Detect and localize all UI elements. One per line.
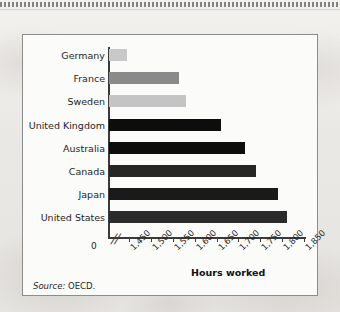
source-label: Source:: [33, 281, 65, 291]
bar-sweden: [109, 95, 186, 107]
x-axis-tick: [173, 237, 174, 242]
x-axis-tick-label: 1,650: [216, 228, 240, 252]
x-axis-title: Hours worked: [191, 267, 265, 278]
category-label-united-kingdom: United Kingdom: [29, 120, 105, 131]
x-axis-tick-label: 1,800: [281, 228, 305, 252]
x-axis-tick: [195, 237, 196, 242]
category-label-united-states: United States: [41, 212, 105, 223]
x-axis-tick-label: 1,850: [303, 228, 327, 252]
x-axis-tick-label: 1,550: [172, 228, 196, 252]
figure-frame: 0 // 1,4501,5001,5501,6001,6501,7001,750…: [22, 34, 318, 296]
source-note: Source: OECD.: [33, 281, 95, 291]
category-label-germany: Germany: [61, 50, 105, 61]
bar-germany: [109, 49, 127, 61]
category-label-japan: Japan: [79, 189, 106, 200]
bar-united-states: [109, 211, 287, 223]
x-axis-tick-label: 1,500: [150, 228, 174, 252]
page-background: 0 // 1,4501,5001,5501,6001,6501,7001,750…: [0, 0, 340, 312]
x-axis-tick: [151, 237, 152, 242]
x-axis-zero-label: 0: [91, 241, 97, 251]
category-label-canada: Canada: [69, 166, 105, 177]
x-axis-tick-label: 1,450: [128, 228, 152, 252]
bar-japan: [109, 188, 278, 200]
bar-united-kingdom: [109, 119, 221, 131]
bar-france: [109, 72, 179, 84]
category-label-sweden: Sweden: [67, 96, 105, 107]
source-value: OECD.: [68, 281, 95, 291]
top-rule-divider: [0, 9, 340, 10]
bar-australia: [109, 142, 245, 154]
x-axis-tick-label: 1,750: [259, 228, 283, 252]
x-axis-tick-label: 1,700: [237, 228, 261, 252]
x-axis-tick-label: 1,600: [194, 228, 218, 252]
bar-chart-plot: 0 // 1,4501,5001,5501,6001,6501,7001,750…: [23, 35, 319, 297]
perforation-strip: [0, 2, 340, 7]
category-label-australia: Australia: [63, 143, 105, 154]
bar-canada: [109, 165, 256, 177]
category-label-france: France: [73, 73, 105, 84]
x-axis-tick: [217, 237, 218, 242]
